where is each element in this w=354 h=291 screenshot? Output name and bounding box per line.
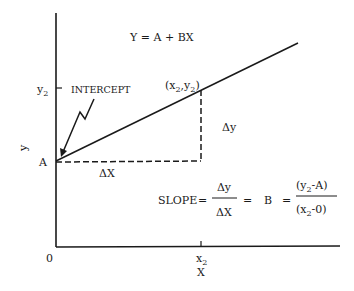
y-axis-label: y: [17, 144, 30, 152]
x-axis: [56, 246, 340, 247]
slope-frac1-numerator: Δy: [217, 181, 232, 194]
equals-sign-2: =: [243, 194, 252, 207]
slope-frac2-denominator: (x2-0): [296, 203, 327, 218]
intercept-annotation: INTERCEPT: [71, 84, 131, 95]
equals-sign-1: =: [198, 194, 207, 207]
x2-tick-label: x2: [196, 252, 207, 267]
slope-frac1-denominator: ΔX: [216, 206, 232, 219]
equation-title: Y = A + BX: [129, 31, 194, 44]
slope-formula: SLOPE = Δy ΔX = B = (y2-A) (x2-0): [158, 179, 337, 219]
intercept-label: A: [38, 156, 48, 169]
x-axis-label: X: [197, 266, 205, 279]
linear-regression-diagram: Y = A + BX y2 INTERCEPT (x2,y2) Δy y A Δ…: [0, 0, 354, 291]
equals-sign-3: =: [282, 194, 291, 207]
slope-frac2-numerator: (y2-A): [296, 179, 328, 194]
y2-tick-label: y2: [36, 83, 48, 98]
point-label: (x2,y2): [165, 79, 200, 94]
origin-label: 0: [46, 252, 53, 265]
slope-label: SLOPE: [158, 194, 197, 207]
slope-b-label: B: [264, 194, 272, 207]
delta-x-dashed-line: [56, 161, 201, 162]
delta-x-label: ΔX: [99, 167, 115, 180]
delta-y-label: Δy: [222, 121, 237, 134]
